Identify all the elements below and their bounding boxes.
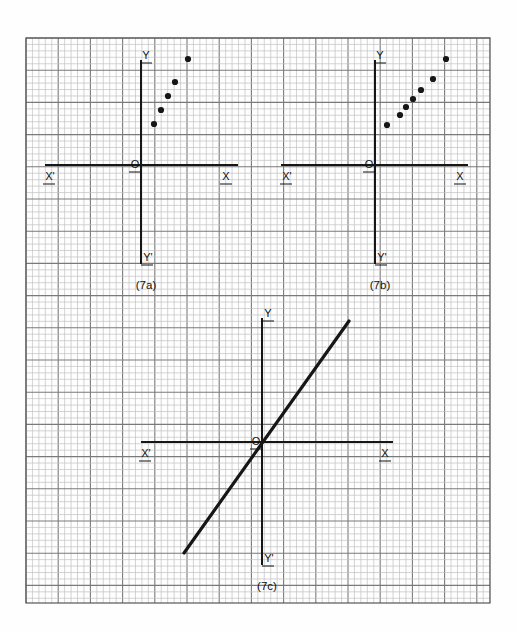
data-point [384, 122, 390, 128]
panel-7c-caption: (7c) [257, 580, 277, 592]
panel-7c-x-positive-label: X [381, 447, 389, 459]
data-point [397, 112, 403, 118]
panel-7a-x-positive-label: X [222, 170, 230, 182]
graph-paper-figure: Y O X' X Y' (7a) Y O [0, 0, 516, 631]
panel-7c-y-negative-label: Y' [264, 552, 273, 564]
panel-7c-x-negative-label: X' [141, 447, 150, 459]
panel-7a-x-negative-label: X' [45, 170, 54, 182]
data-point [430, 76, 436, 82]
panel-7b-x-positive-label: X [456, 170, 464, 182]
data-point [158, 107, 164, 113]
panel-7a-origin-label: O [131, 158, 140, 170]
data-point [165, 93, 171, 99]
data-point [151, 121, 157, 127]
panel-7a-y-label: Y [142, 49, 150, 61]
data-point [443, 56, 449, 62]
data-point [172, 79, 178, 85]
panel-7b-x-negative-label: X' [282, 170, 291, 182]
panel-7b-y-negative-label: Y' [377, 251, 386, 263]
data-point [410, 96, 416, 102]
data-point [403, 104, 409, 110]
panel-7c-y-label: Y [264, 307, 272, 319]
data-point [418, 87, 424, 93]
panel-7b-y-label: Y [376, 49, 384, 61]
panel-7a-y-negative-label: Y' [143, 251, 152, 263]
panel-7b-caption: (7b) [370, 279, 391, 291]
panel-7b-origin-label: O [365, 158, 374, 170]
panel-7a-caption: (7a) [136, 279, 157, 291]
figure-root: Y O X' X Y' (7a) Y O [0, 0, 516, 631]
data-point [185, 56, 191, 62]
